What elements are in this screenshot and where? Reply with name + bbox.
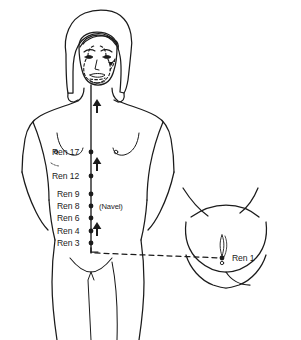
acupoint-label-ren6: Ren 6 — [57, 214, 79, 223]
face-outline — [79, 32, 118, 85]
acupoint-dot-ren9 — [89, 192, 94, 197]
acupoint-dot-ren6 — [89, 216, 94, 221]
arrow-lower-icon — [93, 222, 102, 236]
acupoint-label-ren3: Ren 3 — [57, 239, 79, 248]
acupoint-dot-ren12 — [89, 174, 94, 179]
arrow-mid-icon — [93, 157, 102, 171]
ren1-branch-dashed-path — [91, 252, 222, 258]
acupoint-dot-ren8 — [89, 204, 94, 209]
acupoint-label-ren1: Ren 1 — [232, 254, 254, 263]
acupoint-label-ren17: Ren 17 — [52, 148, 79, 157]
acupoint-dot-ren3 — [89, 241, 94, 246]
acupoint-label-ren9: Ren 9 — [57, 190, 79, 199]
acupoint-label-ren8: Ren 8 — [57, 202, 79, 211]
hair-outline — [65, 10, 131, 102]
diagram-canvas: Ren 17 Ren 12 Ren 9 Ren 8 Ren 6 Ren 4 Re… — [0, 0, 301, 340]
body-figure-illustration — [0, 0, 301, 340]
navel-annotation-label: (Navel) — [99, 203, 123, 211]
acupoint-dot-ren4 — [89, 229, 94, 234]
acupoint-dot-ren1 — [220, 256, 225, 261]
acupoint-label-ren12: Ren 12 — [52, 172, 79, 181]
acupoint-label-ren4: Ren 4 — [57, 227, 79, 236]
lower-body-outline — [52, 240, 144, 340]
perineum-inset-illustration — [183, 188, 266, 288]
arrow-upper-icon — [93, 99, 102, 113]
acupoint-dot-ren17 — [89, 150, 94, 155]
